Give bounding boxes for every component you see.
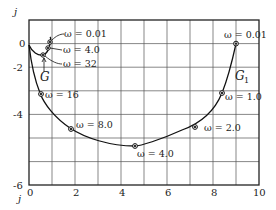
label-g1-sub: 1: [244, 76, 249, 85]
y-tick-m2: -2: [13, 62, 23, 73]
label-w2: ω = 2.0: [204, 122, 241, 133]
label-w4: ω = 4.0: [137, 148, 174, 159]
y-tick-m6: -6: [13, 180, 23, 191]
label-w001: ω = 0.01: [224, 29, 267, 40]
leader-lines: [42, 34, 64, 72]
x-tick-2: 2: [73, 187, 79, 198]
y-axis-label-bottom: j: [16, 193, 21, 204]
x-tick-10: 10: [253, 187, 266, 198]
label-w8: ω = 8.0: [76, 119, 113, 130]
nyquist-plot: j 0 -2 -4 -6 j 0 2 4 6 8 10 ω = 0.01 ω =…: [0, 0, 276, 210]
x-tick-8: 8: [211, 187, 217, 198]
y-tick-m4: -4: [13, 109, 23, 120]
y-tick-0: 0: [19, 38, 25, 49]
label-g-w001: ω = 0.01: [64, 28, 107, 39]
x-tick-4: 4: [119, 187, 125, 198]
label-g-w4: ω = 4.0: [63, 44, 100, 55]
label-g: G: [40, 70, 50, 84]
x-tick-0: 0: [27, 187, 33, 198]
label-w16: ω = 16: [45, 89, 79, 100]
x-tick-6: 6: [165, 187, 171, 198]
y-axis-label: j: [12, 6, 17, 17]
label-w1: ω = 1.0: [225, 91, 262, 102]
label-g-w32: ω = 32: [63, 58, 97, 69]
